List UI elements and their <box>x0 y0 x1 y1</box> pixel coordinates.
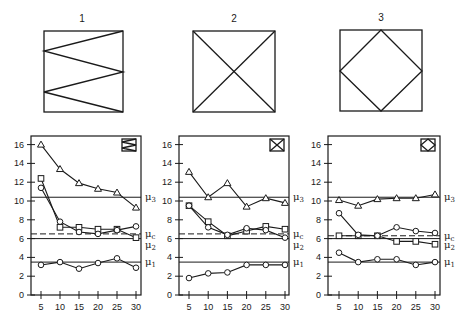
data-point <box>394 256 400 262</box>
data-point <box>114 227 120 233</box>
data-point <box>57 225 63 231</box>
data-point <box>95 260 101 266</box>
data-point <box>38 262 44 268</box>
diagram-label: 1 <box>79 13 85 24</box>
x-tick-label: 25 <box>261 302 271 312</box>
x-tick-label: 20 <box>242 302 252 312</box>
series-circle-lower <box>186 262 288 281</box>
data-point <box>355 259 361 265</box>
y-tick-label: 14 <box>14 158 24 168</box>
data-point <box>114 256 120 262</box>
chart-3: 024681012141651015202530μ3μcμ2μ1 <box>311 136 455 312</box>
y-tick-label: 0 <box>19 290 24 300</box>
data-point <box>413 262 419 268</box>
series-triangle <box>336 191 439 208</box>
y-tick-label: 6 <box>316 234 321 244</box>
x-tick-label: 30 <box>280 302 290 312</box>
x-tick-label: 25 <box>112 302 122 312</box>
plot-frame <box>31 136 141 295</box>
diamond-icon <box>421 139 435 151</box>
series-triangle <box>186 168 289 209</box>
x-tick-label: 15 <box>372 302 382 312</box>
reference-label: μ1 <box>444 256 455 269</box>
y-tick-label: 8 <box>316 215 321 225</box>
series-square <box>336 233 438 247</box>
x-tick-label: 5 <box>336 302 341 312</box>
reference-label: μ1 <box>293 256 304 269</box>
y-tick-label: 4 <box>19 252 24 262</box>
data-point <box>186 203 192 209</box>
data-point <box>224 180 231 186</box>
data-point <box>336 233 342 239</box>
zigzag-icon <box>122 139 136 151</box>
data-point <box>133 265 139 271</box>
x-tick-label: 20 <box>392 302 402 312</box>
series-circle-lower <box>38 256 139 272</box>
data-point <box>263 262 269 268</box>
data-point <box>205 225 211 231</box>
reference-label: μ3 <box>293 191 304 204</box>
y-tick-label: 0 <box>167 290 172 300</box>
data-point <box>225 270 231 276</box>
data-point <box>394 225 400 231</box>
reference-label: μ1 <box>145 256 156 269</box>
y-tick-label: 14 <box>311 158 321 168</box>
figure: 1 2 3 024681012141651015202530μ3μcμ2μ1 0… <box>0 0 476 326</box>
y-tick-label: 6 <box>167 234 172 244</box>
data-point <box>432 241 438 247</box>
data-point <box>38 176 44 182</box>
y-tick-label: 4 <box>167 252 172 262</box>
x-tick-label: 10 <box>55 302 65 312</box>
data-point <box>263 227 269 233</box>
series-circle-upper <box>186 203 288 241</box>
data-point <box>432 230 438 236</box>
x-tick-label: 30 <box>131 302 141 312</box>
data-point <box>38 185 44 191</box>
y-tick-label: 8 <box>19 215 24 225</box>
data-point <box>76 180 83 186</box>
data-point <box>375 256 381 262</box>
y-tick-label: 12 <box>14 177 24 187</box>
x-tick-label: 15 <box>222 302 232 312</box>
series-circle-upper <box>336 210 438 238</box>
series-circle-lower <box>336 250 438 268</box>
diagram-diamond: 3 <box>340 12 422 111</box>
data-point <box>336 210 342 216</box>
data-point <box>205 271 211 277</box>
data-point <box>375 233 381 239</box>
y-tick-label: 2 <box>167 271 172 281</box>
reference-label: μ3 <box>444 191 455 204</box>
reference-label: μ3 <box>145 191 156 204</box>
y-tick-label: 10 <box>311 196 321 206</box>
y-tick-label: 2 <box>316 271 321 281</box>
x-cross-icon <box>270 139 284 151</box>
y-tick-label: 12 <box>311 177 321 187</box>
y-tick-label: 6 <box>19 234 24 244</box>
data-point <box>133 235 139 241</box>
data-point <box>282 262 288 268</box>
data-point <box>225 232 231 238</box>
chart-1: 024681012141651015202530μ3μcμ2μ1 <box>14 136 156 312</box>
y-tick-label: 12 <box>162 177 172 187</box>
diagram-label: 2 <box>231 13 237 24</box>
y-tick-label: 0 <box>316 290 321 300</box>
data-point <box>394 239 400 245</box>
data-point <box>244 262 250 268</box>
y-tick-label: 14 <box>162 158 172 168</box>
data-point <box>432 259 438 265</box>
data-point <box>186 168 193 174</box>
series-square <box>38 176 139 241</box>
data-point <box>186 275 192 281</box>
diagram-label: 3 <box>378 12 384 23</box>
diagram-x-cross: 2 <box>193 13 275 112</box>
data-point <box>38 141 45 147</box>
y-tick-label: 8 <box>167 215 172 225</box>
data-point <box>336 250 342 256</box>
data-point <box>57 219 63 225</box>
data-point <box>244 225 250 231</box>
x-tick-label: 30 <box>430 302 440 312</box>
plot-frame <box>179 136 289 295</box>
data-point <box>205 219 211 225</box>
y-tick-label: 4 <box>316 252 321 262</box>
data-point <box>282 235 288 241</box>
